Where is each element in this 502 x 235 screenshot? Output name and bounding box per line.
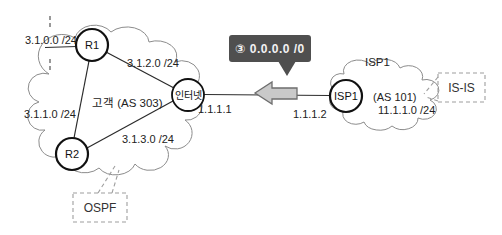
r1-r2-network-label: 3.1.1.0 /24 [24, 108, 76, 120]
ospf-callout-pointer-2 [112, 170, 119, 193]
router-r2-label: R2 [65, 148, 79, 160]
r2-internet-network-label: 3.1.3.0 /24 [122, 133, 174, 145]
isp-as-label: (AS 101) [373, 91, 416, 103]
isp1-ip-label: 1.1.1.2 [293, 108, 327, 120]
ospf-label: OSPF [84, 201, 117, 215]
r1-internet-network-label: 3.1.2.0 /24 [127, 57, 179, 69]
customer-as-label: 고객 (AS 303) [92, 97, 163, 109]
route-badge-pointer [278, 61, 296, 76]
route-direction-arrow-icon [255, 82, 297, 104]
router-r1-label: R1 [85, 39, 99, 51]
internet-label: 인터넷 [175, 90, 202, 101]
isp-network-label: 11.1.1.0 /24 [378, 104, 435, 116]
link-r1-r2 [74, 61, 89, 138]
network-diagram: OSPF IS-IS ③ 0.0.0.0 /0 R1 R2 인터넷 ISP1 3… [0, 0, 502, 235]
isp-cloud-name-label: ISP1 [365, 56, 390, 68]
route-badge-text: ③ 0.0.0.0 /0 [235, 42, 305, 56]
r1-stub-link-line [45, 47, 77, 48]
r1-stub-network-label: 3.1.0.0 /24 [25, 34, 77, 46]
internet-ip-label: 1.1.1.1 [198, 103, 232, 115]
isis-label: IS-IS [448, 81, 475, 95]
router-isp1-label: ISP1 [334, 90, 358, 102]
